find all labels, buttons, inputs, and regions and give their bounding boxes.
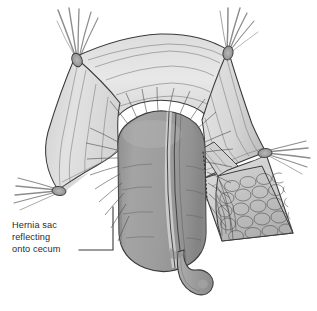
hernia-sac-label-line-1: Hernia sac — [12, 220, 57, 230]
hernia-sac-cecum-illustration: Hernia sac reflecting onto cecum — [0, 0, 317, 311]
hernia-sac-label-line-3: onto cecum — [12, 244, 61, 254]
hernia-sac-label-line-2: reflecting — [12, 232, 50, 242]
medical-illustration-figure: Hernia sac reflecting onto cecum — [0, 0, 317, 311]
cecum — [112, 110, 212, 272]
